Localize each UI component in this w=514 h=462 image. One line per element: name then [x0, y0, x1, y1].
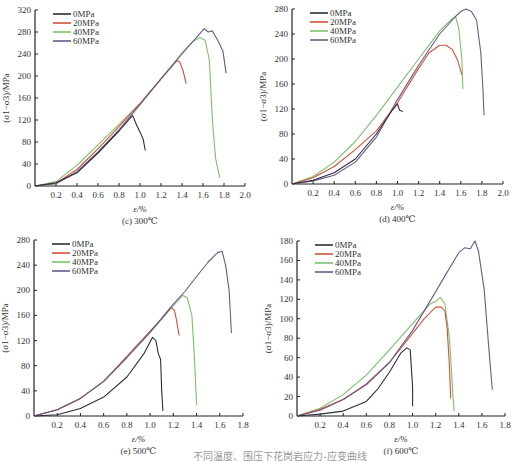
- x-tick-label: 1.4: [176, 190, 188, 200]
- x-tick-label: 1.2: [430, 420, 441, 430]
- y-tick-label: 100: [280, 314, 294, 324]
- y-tick-label: 240: [17, 260, 31, 270]
- x-tick-label: 0.2: [52, 420, 63, 430]
- x-tick-label: 1.6: [197, 190, 209, 200]
- y-tick-label: 120: [18, 115, 32, 125]
- y-tick-label: 240: [275, 29, 289, 39]
- legend-label: 60MPa: [335, 267, 361, 277]
- y-tick-label: 40: [21, 386, 31, 396]
- y-axis-label: (σ1−σ3)/MPa: [263, 304, 273, 353]
- y-tick-label: 0: [27, 181, 32, 191]
- y-axis-label: (σ1−σ3)/MPa: [258, 72, 268, 121]
- y-tick-label: 0: [289, 411, 294, 421]
- series-line-20mpa: [297, 307, 451, 416]
- y-axis-label: (σ1−σ3)/MPa: [0, 303, 10, 352]
- x-tick-label: 1.4: [191, 420, 203, 430]
- x-tick-label: 1.2: [413, 188, 424, 198]
- x-tick-label: 0.8: [121, 420, 133, 430]
- y-tick-label: 160: [280, 255, 294, 265]
- series-line-60mpa: [35, 29, 226, 186]
- x-axis-label: ε/%: [391, 202, 405, 212]
- y-tick-label: 60: [284, 353, 294, 363]
- x-tick-label: 0.6: [350, 188, 362, 198]
- figure-caption: 不同温度、围压下花岗岩应力-应变曲线: [130, 448, 430, 462]
- series-line-0mpa: [35, 116, 145, 186]
- y-tick-label: 280: [17, 235, 31, 245]
- series-line-0mpa: [34, 337, 163, 416]
- x-tick-label: 0.8: [384, 420, 396, 430]
- x-tick-label: 0.2: [307, 188, 318, 198]
- y-tick-label: 200: [17, 285, 31, 295]
- y-tick-label: 20: [284, 392, 294, 402]
- y-tick-label: 140: [280, 275, 294, 285]
- y-tick-label: 0: [284, 179, 289, 189]
- x-tick-label: 0.6: [98, 420, 110, 430]
- panel-e: 0.20.40.60.81.01.21.41.61.80408012016020…: [0, 235, 249, 456]
- y-tick-label: 80: [284, 333, 294, 343]
- panel-title: (c) 300℃: [122, 216, 158, 226]
- legend-label: 60MPa: [72, 266, 98, 276]
- y-tick-label: 120: [17, 336, 31, 346]
- panel-c: 0.20.40.60.81.01.21.41.61.82.00408012016…: [1, 5, 251, 226]
- x-tick-label: 1.8: [476, 188, 488, 198]
- y-tick-label: 40: [22, 159, 32, 169]
- series-line-40mpa: [35, 38, 220, 187]
- x-tick-label: 1.4: [434, 188, 446, 198]
- series-line-20mpa: [35, 61, 186, 186]
- y-axis-label: (σ1−σ3)/MPa: [1, 73, 11, 122]
- y-tick-label: 120: [275, 104, 289, 114]
- x-tick-label: 0.4: [75, 420, 87, 430]
- x-tick-label: 1.6: [214, 420, 226, 430]
- x-tick-label: 2.0: [239, 190, 251, 200]
- x-tick-label: 0.4: [329, 188, 341, 198]
- y-tick-label: 80: [279, 129, 289, 139]
- y-tick-label: 160: [18, 93, 32, 103]
- y-tick-label: 320: [18, 5, 32, 15]
- y-tick-label: 80: [21, 361, 31, 371]
- x-tick-label: 0.2: [50, 190, 61, 200]
- x-axis-label: ε/%: [132, 434, 146, 444]
- y-tick-label: 40: [279, 154, 289, 164]
- legend-label: 60MPa: [73, 36, 99, 46]
- x-tick-label: 1.4: [453, 420, 465, 430]
- series-line-60mpa: [297, 241, 492, 416]
- y-tick-label: 180: [280, 236, 294, 246]
- series-line-40mpa: [34, 295, 197, 416]
- panel-f: 0.20.40.60.81.01.21.41.61.80204060801001…: [263, 236, 511, 456]
- x-tick-label: 1.0: [134, 190, 146, 200]
- x-tick-label: 2.0: [497, 188, 509, 198]
- x-tick-label: 1.2: [168, 420, 179, 430]
- y-tick-label: 200: [275, 54, 289, 64]
- x-tick-label: 0.4: [338, 420, 350, 430]
- x-tick-label: 1.2: [155, 190, 166, 200]
- y-tick-label: 80: [22, 137, 32, 147]
- x-tick-label: 1.8: [218, 190, 230, 200]
- y-tick-label: 120: [280, 294, 294, 304]
- legend-label: 60MPa: [330, 35, 356, 45]
- y-tick-label: 160: [275, 79, 289, 89]
- y-tick-label: 40: [284, 372, 294, 382]
- figure: 0.20.40.60.81.01.21.41.61.82.00408012016…: [0, 0, 514, 462]
- x-tick-label: 0.6: [92, 190, 104, 200]
- series-line-0mpa: [297, 348, 413, 416]
- x-tick-label: 0.4: [71, 190, 83, 200]
- y-tick-label: 200: [18, 71, 32, 81]
- series-line-40mpa: [297, 297, 454, 416]
- x-axis-label: ε/%: [133, 204, 147, 214]
- y-tick-label: 280: [18, 27, 32, 37]
- y-tick-label: 160: [17, 310, 31, 320]
- series-line-40mpa: [292, 17, 463, 185]
- series-line-60mpa: [292, 9, 484, 184]
- x-tick-label: 1.6: [455, 188, 467, 198]
- y-tick-label: 240: [18, 49, 32, 59]
- x-tick-label: 0.8: [371, 188, 383, 198]
- series-line-0mpa: [292, 104, 403, 184]
- x-tick-label: 1.0: [144, 420, 156, 430]
- x-tick-label: 1.8: [499, 420, 511, 430]
- x-tick-label: 0.8: [113, 190, 125, 200]
- x-tick-label: 1.0: [392, 188, 404, 198]
- x-tick-label: 1.6: [476, 420, 488, 430]
- x-tick-label: 1.0: [407, 420, 419, 430]
- panel-d: 0.20.40.60.81.01.21.41.61.82.00408012016…: [258, 4, 509, 224]
- x-tick-label: 1.8: [237, 420, 249, 430]
